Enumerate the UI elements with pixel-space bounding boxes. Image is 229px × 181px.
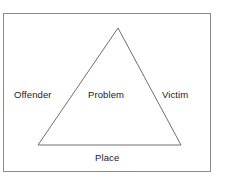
label-victim: Victim (162, 89, 188, 100)
figure-root: Offender Problem Victim Place (0, 0, 229, 181)
label-problem: Problem (88, 89, 124, 100)
triangle-outline (38, 28, 181, 145)
label-offender: Offender (14, 89, 52, 100)
label-place: Place (95, 152, 119, 163)
